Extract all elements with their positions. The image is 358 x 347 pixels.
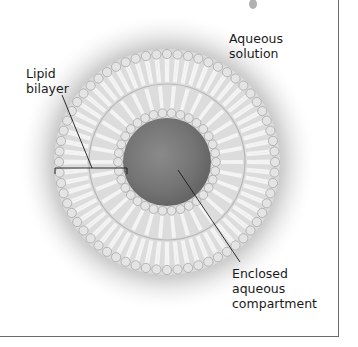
enclosed-compartment-label: Enclosed aqueous compartment: [232, 266, 317, 311]
aqueous-solution-label: Aqueous solution: [229, 31, 283, 61]
lipid-bilayer-label: Lipid bilayer: [26, 66, 69, 96]
fragment-mark: [249, 0, 257, 9]
enclosed-aqueous-core: [123, 118, 211, 206]
